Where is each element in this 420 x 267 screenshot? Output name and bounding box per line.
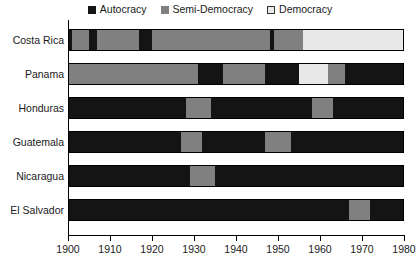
timeline-segment xyxy=(89,30,97,50)
legend-swatch-icon xyxy=(267,6,275,14)
x-axis-tick-label: 1980 xyxy=(392,243,415,255)
x-axis-tick xyxy=(194,236,195,241)
x-axis-tick-label: 1900 xyxy=(56,243,79,255)
legend-swatch-icon xyxy=(88,6,96,14)
x-axis-tick xyxy=(236,236,237,241)
x-axis-tick-label: 1930 xyxy=(182,243,205,255)
timeline-segment xyxy=(303,30,404,50)
timeline-bar xyxy=(68,199,404,221)
timeline-segment xyxy=(68,64,198,84)
timeline-segment xyxy=(97,30,139,50)
timeline-segment xyxy=(68,132,181,152)
timeline-segment xyxy=(312,98,333,118)
timeline-segment xyxy=(152,30,270,50)
x-axis-tick-label: 1940 xyxy=(224,243,247,255)
x-axis-tick xyxy=(278,236,279,241)
x-axis-tick xyxy=(320,236,321,241)
x-axis-tick-label: 1950 xyxy=(266,243,289,255)
legend-swatch-icon xyxy=(161,6,169,14)
legend-entry: Semi-Democracy xyxy=(161,4,254,15)
x-axis-tick xyxy=(110,236,111,241)
x-axis-tick-label: 1960 xyxy=(308,243,331,255)
timeline-segment xyxy=(68,166,190,186)
timeline-segment xyxy=(265,64,299,84)
timeline-segment xyxy=(215,166,404,186)
timeline-segment xyxy=(265,132,290,152)
timeline-segment xyxy=(202,132,265,152)
timeline-bar xyxy=(68,63,404,85)
legend-label: Semi-Democracy xyxy=(173,4,254,15)
regime-timeline-chart: AutocracySemi-DemocracyDemocracy Costa R… xyxy=(0,0,420,267)
category-label: Nicaragua xyxy=(0,170,68,182)
timeline-segment xyxy=(333,98,404,118)
legend-entry: Democracy xyxy=(267,4,332,15)
timeline-segment xyxy=(186,98,211,118)
timeline-segment xyxy=(68,98,186,118)
timeline-bar xyxy=(68,131,404,153)
timeline-bar xyxy=(68,29,404,51)
x-axis-tick xyxy=(362,236,363,241)
timeline-segment xyxy=(345,64,404,84)
x-axis-tick xyxy=(68,236,69,241)
timeline-bar xyxy=(68,165,404,187)
timeline-segment xyxy=(198,64,223,84)
chart-legend: AutocracySemi-DemocracyDemocracy xyxy=(0,4,420,15)
legend-label: Democracy xyxy=(279,4,332,15)
x-axis-tick-label: 1920 xyxy=(140,243,163,255)
x-axis-tick-label: 1910 xyxy=(98,243,121,255)
x-axis-tick-label: 1970 xyxy=(350,243,373,255)
category-label: Honduras xyxy=(0,102,68,114)
category-label: Costa Rica xyxy=(0,34,68,46)
category-label: El Salvador xyxy=(0,204,68,216)
timeline-segment xyxy=(139,30,152,50)
timeline-segment xyxy=(72,30,89,50)
timeline-segment xyxy=(291,132,404,152)
timeline-segment xyxy=(68,200,349,220)
timeline-segment xyxy=(190,166,215,186)
category-label: Panama xyxy=(0,68,68,80)
timeline-segment xyxy=(223,64,265,84)
timeline-bar xyxy=(68,97,404,119)
legend-label: Autocracy xyxy=(100,4,147,15)
category-label: Guatemala xyxy=(0,136,68,148)
timeline-segment xyxy=(211,98,312,118)
timeline-segment xyxy=(370,200,404,220)
timeline-segment xyxy=(349,200,370,220)
x-axis-tick xyxy=(404,236,405,241)
timeline-segment xyxy=(328,64,345,84)
legend-entry: Autocracy xyxy=(88,4,147,15)
timeline-segment xyxy=(274,30,303,50)
timeline-segment xyxy=(181,132,202,152)
x-axis-tick xyxy=(152,236,153,241)
timeline-segment xyxy=(299,64,328,84)
